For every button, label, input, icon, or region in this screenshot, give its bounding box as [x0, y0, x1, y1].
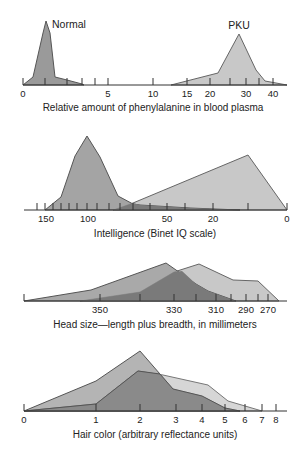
pku-comparison-figure: 0 5 10 15 20 30 40 Normal PKU Relative a… — [0, 0, 307, 453]
tick-label: 0 — [21, 414, 26, 425]
tick-label: 1 — [93, 414, 98, 425]
tick-label: 7 — [259, 414, 264, 425]
tick-label: 20 — [205, 88, 216, 99]
x-axis-title: Hair color (arbitrary reflectance units) — [73, 429, 238, 440]
tick-label: 20 — [208, 213, 219, 224]
tick-label: 310 — [208, 304, 224, 315]
pku-label: PKU — [228, 19, 250, 31]
tick-label: 290 — [238, 304, 254, 315]
pku-distribution — [113, 155, 287, 210]
tick-label: 350 — [92, 304, 108, 315]
x-axis-title: Intelligence (Binet IQ scale) — [94, 228, 216, 239]
tick-label: 2 — [137, 414, 142, 425]
tick-label: 4 — [199, 414, 204, 425]
tick-label: 0 — [20, 88, 25, 99]
x-axis-title: Head size—length plus breadth, in millim… — [53, 319, 256, 330]
panel-head-size: 350 330 310 290 270 Head size—length plu… — [24, 263, 287, 330]
tick-label: 10 — [148, 88, 159, 99]
tick-label: 270 — [260, 304, 276, 315]
normal-label: Normal — [52, 18, 86, 30]
panel-phenylalanine: 0 5 10 15 20 30 40 Normal PKU Relative a… — [20, 18, 287, 113]
pku-distribution — [171, 34, 287, 85]
tick-label: 3 — [173, 414, 178, 425]
tick-label: 330 — [166, 304, 182, 315]
tick-label: 5 — [105, 88, 110, 99]
tick-label: 40 — [268, 88, 279, 99]
x-axis-title: Relative amount of phenylalanine in bloo… — [43, 102, 264, 113]
tick-label: 8 — [273, 414, 278, 425]
tick-label: 15 — [182, 88, 193, 99]
panel-intelligence: 150 100 50 20 0 Intelligence (Binet IQ s… — [24, 136, 290, 239]
tick-label: 30 — [241, 88, 252, 99]
tick-label: 50 — [162, 213, 173, 224]
tick-label: 5 — [222, 414, 227, 425]
tick-label: 150 — [38, 213, 54, 224]
normal-distribution — [23, 21, 84, 85]
tick-label: 6 — [242, 414, 247, 425]
tick-label: 100 — [80, 213, 96, 224]
tick-label: 0 — [284, 213, 289, 224]
panel-hair-color: 0 1 2 3 4 5 6 7 8 Hair color (arbitrary … — [21, 351, 287, 440]
